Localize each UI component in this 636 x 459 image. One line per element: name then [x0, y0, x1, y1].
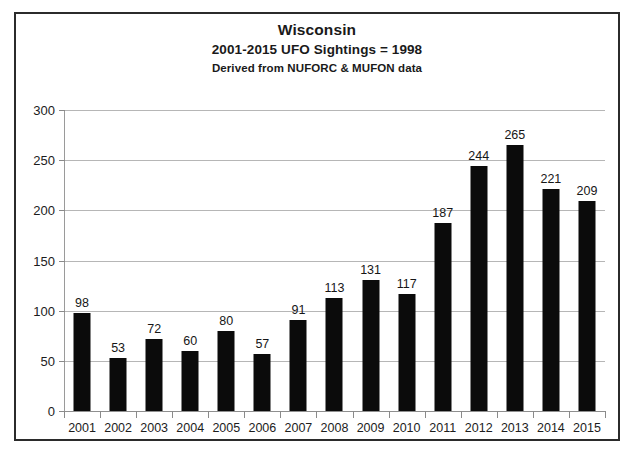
chart-title-block: Wisconsin 2001-2015 UFO Sightings = 1998…	[16, 20, 618, 77]
bar-group: 221	[533, 110, 569, 411]
x-axis-tick	[172, 411, 173, 418]
y-axis-label: 0	[48, 404, 55, 419]
x-axis-label: 2003	[140, 421, 168, 435]
x-axis-tick	[208, 411, 209, 418]
bar[interactable]	[182, 351, 199, 411]
x-axis-tick	[425, 411, 426, 418]
bar-value-label: 91	[291, 303, 305, 317]
x-axis-label: 2002	[104, 421, 132, 435]
x-axis-tick	[533, 411, 534, 418]
y-axis-label: 250	[33, 153, 55, 168]
x-axis-tick	[389, 411, 390, 418]
chart-frame: Wisconsin 2001-2015 UFO Sightings = 1998…	[14, 12, 620, 441]
bar[interactable]	[578, 201, 595, 411]
bar-group: 53	[100, 110, 136, 411]
bar[interactable]	[74, 313, 91, 411]
x-axis-label: 2008	[321, 421, 349, 435]
bar-group: 57	[244, 110, 280, 411]
bar-group: 244	[461, 110, 497, 411]
bar-value-label: 187	[432, 206, 453, 220]
bar[interactable]	[146, 339, 163, 411]
x-axis-tick	[244, 411, 245, 418]
x-axis-label: 2011	[429, 421, 456, 435]
bar-group: 80	[208, 110, 244, 411]
x-axis-label: 2013	[501, 421, 529, 435]
bar-group: 60	[172, 110, 208, 411]
bar-value-label: 60	[183, 334, 197, 348]
bar-value-label: 244	[468, 149, 489, 163]
x-axis-label: 2012	[465, 421, 493, 435]
bar-value-label: 98	[75, 296, 89, 310]
plot-area: 050100150200250300 985372608057911131311…	[64, 110, 605, 411]
bar-group: 117	[389, 110, 425, 411]
x-axis-tick	[64, 411, 65, 418]
bar[interactable]	[542, 189, 559, 411]
x-axis-tick	[605, 411, 606, 418]
bar-value-label: 209	[577, 184, 598, 198]
bar-value-label: 113	[325, 281, 345, 295]
x-axis-tick	[461, 411, 462, 418]
x-axis-tick	[136, 411, 137, 418]
bar-group: 131	[353, 110, 389, 411]
x-axis-tick	[353, 411, 354, 418]
bar-group: 187	[425, 110, 461, 411]
page-title: Wisconsin	[16, 20, 618, 40]
bar-value-label: 72	[147, 322, 161, 336]
bar-value-label: 117	[397, 277, 417, 291]
x-axis-label: 2014	[537, 421, 565, 435]
x-axis-label: 2004	[176, 421, 204, 435]
x-axis-label: 2007	[285, 421, 313, 435]
y-axis-label: 300	[33, 103, 55, 118]
bar[interactable]	[362, 280, 379, 411]
x-axis-tick	[497, 411, 498, 418]
x-axis-label: 2010	[393, 421, 421, 435]
x-axis-label: 2015	[573, 421, 601, 435]
x-axis: 2001200220032004200520062007200820092010…	[64, 411, 605, 451]
bar-group: 113	[316, 110, 352, 411]
chart-source-note: Derived from NUFORC & MUFON data	[16, 59, 618, 77]
bar-value-label: 53	[111, 341, 125, 355]
bar[interactable]	[254, 354, 271, 411]
bar[interactable]	[290, 320, 307, 411]
x-axis-label: 2005	[212, 421, 240, 435]
bar[interactable]	[110, 358, 127, 411]
x-axis-tick	[100, 411, 101, 418]
bar[interactable]	[326, 298, 343, 411]
bar[interactable]	[506, 145, 523, 411]
y-axis-label: 50	[41, 353, 55, 368]
bar[interactable]	[218, 331, 235, 411]
bar-group: 91	[280, 110, 316, 411]
x-axis-label: 2006	[248, 421, 276, 435]
bar-value-label: 131	[360, 263, 381, 277]
x-axis-label: 2009	[357, 421, 385, 435]
bar[interactable]	[398, 294, 415, 411]
y-axis-label: 100	[33, 303, 55, 318]
y-axis-label: 200	[33, 203, 55, 218]
chart-subtitle: 2001-2015 UFO Sightings = 1998	[16, 40, 618, 59]
bar-group: 209	[569, 110, 605, 411]
bar-group: 265	[497, 110, 533, 411]
bar-group: 72	[136, 110, 172, 411]
bar[interactable]	[434, 223, 451, 411]
bar-value-label: 57	[255, 337, 269, 351]
bar-value-label: 221	[540, 172, 561, 186]
y-axis-label: 150	[33, 253, 55, 268]
x-axis-tick	[316, 411, 317, 418]
bar-group: 98	[64, 110, 100, 411]
x-axis-label: 2001	[68, 421, 96, 435]
x-axis-tick	[280, 411, 281, 418]
x-axis-tick	[569, 411, 570, 418]
bar-value-label: 80	[219, 314, 233, 328]
bar-value-label: 265	[504, 128, 525, 142]
bar[interactable]	[470, 166, 487, 411]
